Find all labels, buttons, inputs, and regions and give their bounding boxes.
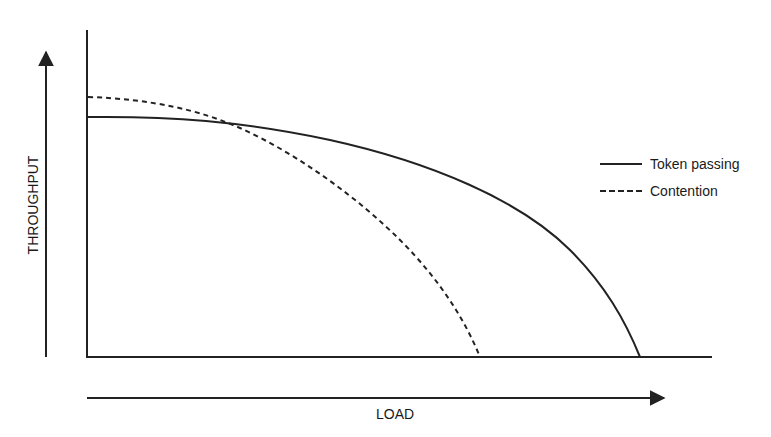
- token-passing-curve: [88, 117, 640, 357]
- y-axis-label: THROUGHPUT: [25, 156, 41, 255]
- contention-curve: [88, 97, 480, 357]
- legend-item-token-passing: Token passing: [600, 150, 740, 177]
- chart-canvas: [0, 0, 771, 437]
- legend-item-contention: Contention: [600, 177, 740, 204]
- x-axis-label: LOAD: [376, 406, 414, 422]
- solid-line-swatch: [600, 163, 642, 165]
- legend: Token passing Contention: [600, 150, 740, 204]
- dashed-line-swatch: [600, 190, 642, 192]
- legend-label: Contention: [650, 183, 718, 199]
- legend-label: Token passing: [650, 156, 740, 172]
